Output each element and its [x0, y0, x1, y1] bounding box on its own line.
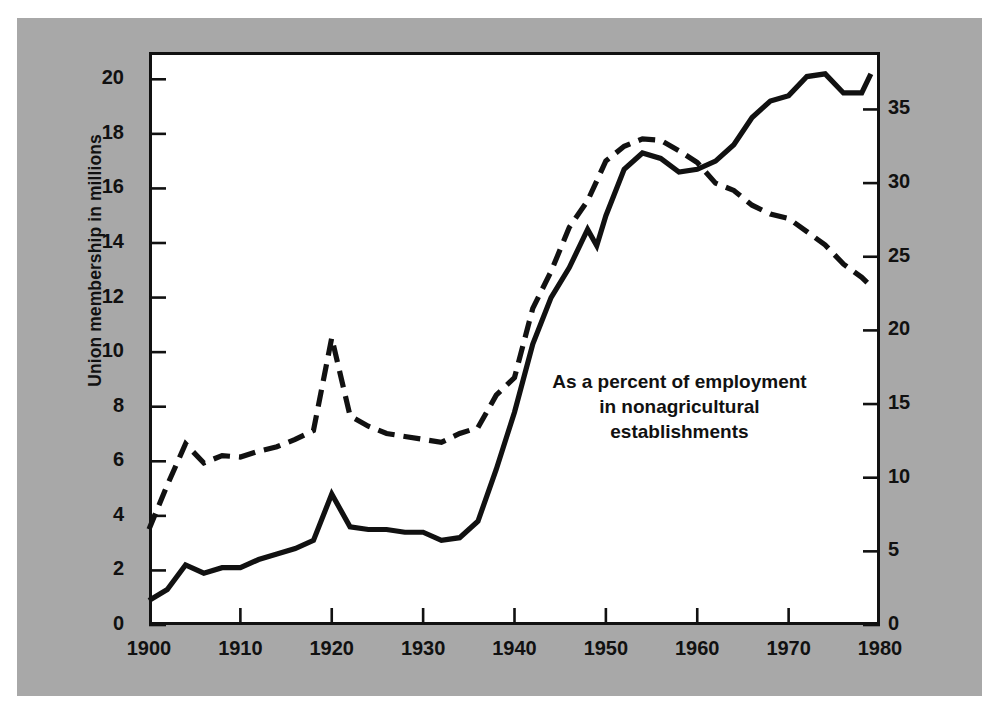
x-tick-label: 1960: [652, 637, 742, 660]
figure-panel: Union membership in millions Percent of …: [17, 18, 982, 696]
x-tick-label: 1980: [835, 637, 925, 660]
right-tick-label: 30: [888, 170, 934, 193]
left-tick-label: 12: [78, 285, 124, 308]
left-tick-label: 16: [78, 175, 124, 198]
left-axis-title: Union membership in millions: [85, 111, 106, 411]
percent-employment-line: [149, 139, 871, 529]
left-tick-label: 8: [78, 394, 124, 417]
left-tick-label: 0: [78, 612, 124, 635]
right-tick-label: 15: [888, 391, 934, 414]
union-membership-line: [149, 74, 871, 601]
x-tick-label: 1930: [378, 637, 468, 660]
left-tick-label: 18: [78, 121, 124, 144]
left-tick-label: 2: [78, 557, 124, 580]
annotation-line-2: in nonagricultural: [552, 394, 806, 419]
x-tick-label: 1940: [470, 637, 560, 660]
left-tick-label: 14: [78, 230, 124, 253]
x-tick-label: 1900: [104, 637, 194, 660]
right-tick-label: 35: [888, 96, 934, 119]
chart-page: Union membership in millions Percent of …: [0, 0, 999, 714]
x-tick-label: 1910: [195, 637, 285, 660]
left-tick-label: 4: [78, 503, 124, 526]
x-tick-label: 1970: [744, 637, 834, 660]
annotation-line-1: As a percent of employment: [552, 369, 806, 394]
plot-area: [132, 52, 880, 643]
right-tick-label: 0: [888, 612, 934, 635]
left-tick-label: 6: [78, 448, 124, 471]
right-tick-label: 25: [888, 244, 934, 267]
chart-svg: [132, 52, 880, 643]
left-tick-label: 10: [78, 339, 124, 362]
annotation-line-3: establishments: [552, 419, 806, 444]
x-tick-label: 1950: [561, 637, 651, 660]
left-tick-label: 20: [78, 66, 124, 89]
right-tick-label: 10: [888, 465, 934, 488]
series-annotation: As a percent of employment in nonagricul…: [552, 369, 806, 445]
right-tick-label: 5: [888, 538, 934, 561]
x-tick-label: 1920: [287, 637, 377, 660]
right-tick-label: 20: [888, 317, 934, 340]
